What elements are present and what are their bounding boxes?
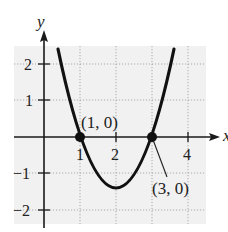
tick-label-x1: 1	[76, 146, 84, 163]
tick-label-yn1: −1	[13, 165, 30, 182]
tick-label-y1: 1	[25, 92, 33, 109]
point-label-1-0: (1, 0)	[81, 113, 118, 132]
y-axis-label: y	[35, 12, 45, 31]
tick-label-yn2: −2	[13, 202, 30, 219]
tick-label-x2: 2	[111, 146, 119, 163]
point-label-3-0: (3, 0)	[152, 179, 189, 198]
tick-label-y2: 2	[24, 56, 32, 73]
point-3-0	[147, 132, 157, 142]
x-axis-label: x	[222, 126, 228, 145]
point-1-0	[75, 132, 85, 142]
tick-label-x4: 4	[183, 146, 191, 163]
graph: y x 1 2 4 2 1 −1 −2 (1, 0) (3, 0)	[0, 0, 228, 232]
